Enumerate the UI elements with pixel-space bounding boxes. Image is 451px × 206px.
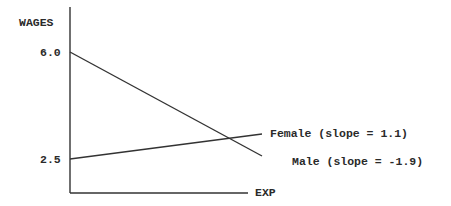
male-line — [70, 52, 262, 156]
y-axis-label: WAGES — [19, 17, 54, 29]
x-axis-label: EXP — [255, 187, 276, 199]
wage-experience-chart: WAGES 6.0 2.5 EXP Female (slope = 1.1) M… — [0, 0, 451, 206]
female-line — [70, 134, 262, 159]
y-tick-6: 6.0 — [40, 47, 61, 59]
legend-female: Female (slope = 1.1) — [270, 128, 408, 140]
chart-plot-area — [0, 0, 451, 206]
legend-male: Male (slope = -1.9) — [292, 156, 423, 168]
y-tick-2-5: 2.5 — [40, 154, 61, 166]
